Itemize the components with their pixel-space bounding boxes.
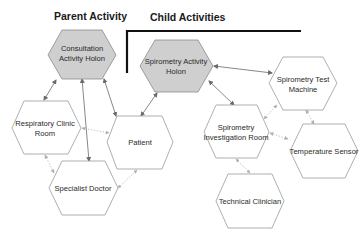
edge-clinic-room-specialist xyxy=(45,155,54,173)
node-consultation-activity-holon[interactable]: Consultation Activity Holon xyxy=(48,30,116,79)
node-spirometry-activity-holon[interactable]: Spirometry Activity Holon xyxy=(140,40,213,92)
parent-activity-title: Parent Activity xyxy=(54,10,127,22)
node-label-line-1: Spirometry xyxy=(218,123,255,132)
node-label-line-1: Spirometry Test xyxy=(277,75,331,84)
edge-investigation-test-machine xyxy=(264,105,277,119)
edge-spirometry-patient xyxy=(141,93,157,116)
node-specialist-doctor[interactable]: Specialist Doctor xyxy=(49,161,118,215)
node-label: Patient xyxy=(128,138,153,147)
edge-consultation-specialist xyxy=(82,79,89,161)
edge-investigation-technician xyxy=(236,159,250,173)
node-label-line-2: Holon xyxy=(166,67,186,76)
diagram-canvas: Parent Activity Child Activities Consult… xyxy=(0,0,359,237)
edge-test-machine-temp-sensor xyxy=(306,110,314,124)
edge-specialist-patient xyxy=(118,170,137,188)
node-respiratory-clinic-room[interactable]: Respiratory Clinic Room xyxy=(12,101,81,154)
node-temperature-sensor[interactable]: Temperature Sensor xyxy=(290,124,359,178)
node-label-line-1: Consultation xyxy=(61,44,103,53)
node-label-line-1: Spirometry Activity xyxy=(145,57,208,66)
node-label: Technical Clinician xyxy=(219,197,281,206)
edge-investigation-temp-sensor xyxy=(270,133,288,139)
node-label-line-2: Machine xyxy=(289,85,318,94)
child-activities-title: Child Activities xyxy=(150,11,226,23)
edge-consultation-clinic-room xyxy=(44,80,56,100)
node-label-line-1: Respiratory Clinic xyxy=(15,119,75,128)
node-technical-clinician[interactable]: Technical Clinician xyxy=(216,174,284,228)
node-spirometry-investigation-room[interactable]: Spirometry Investigation Room xyxy=(203,105,269,158)
node-label: Temperature Sensor xyxy=(290,147,359,156)
node-label: Specialist Doctor xyxy=(55,184,112,193)
node-label-line-2: Room xyxy=(35,129,55,138)
edge-spirometry-test-machine xyxy=(214,66,272,73)
node-spirometry-test-machine[interactable]: Spirometry Test Machine xyxy=(269,57,337,110)
edge-consultation-patient xyxy=(104,79,116,116)
node-patient[interactable]: Patient xyxy=(107,116,173,169)
edge-spirometry-investigation-room xyxy=(209,81,234,105)
node-label-line-2: Investigation Room xyxy=(203,133,268,142)
node-label-line-2: Activity Holon xyxy=(59,54,105,63)
